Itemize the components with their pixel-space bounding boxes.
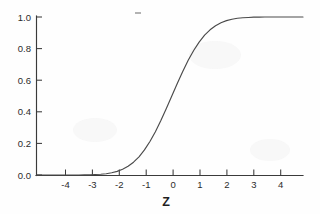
chart-background — [0, 0, 320, 214]
x-tick-label: -1 — [142, 179, 150, 190]
x-tick-label: -4 — [61, 179, 69, 190]
x-tick-label: -2 — [115, 179, 123, 190]
y-tick-label: 0.2 — [18, 138, 31, 149]
y-tick-label: 0.0 — [18, 170, 31, 181]
x-tick-label: 3 — [251, 179, 256, 190]
x-tick-label: 0 — [170, 179, 175, 190]
scan-speck-icon — [135, 12, 141, 14]
normal-cdf-chart: 1.0 0.8 0.6 0.4 0.2 0.0 -4 -3 -2 -1 0 1 … — [0, 0, 320, 214]
x-tick-label: 1 — [197, 179, 202, 190]
y-tick-label: 1.0 — [18, 12, 31, 23]
x-tick-label: -3 — [88, 179, 96, 190]
y-tick-label: 0.6 — [18, 75, 31, 86]
x-axis-title: Z — [162, 195, 170, 209]
x-tick-label: 2 — [224, 179, 229, 190]
figure-canvas: 1.0 0.8 0.6 0.4 0.2 0.0 -4 -3 -2 -1 0 1 … — [0, 0, 320, 214]
x-tick-label: 4 — [278, 179, 283, 190]
y-tick-label: 0.8 — [18, 43, 31, 54]
y-tick-label: 0.4 — [18, 106, 31, 117]
